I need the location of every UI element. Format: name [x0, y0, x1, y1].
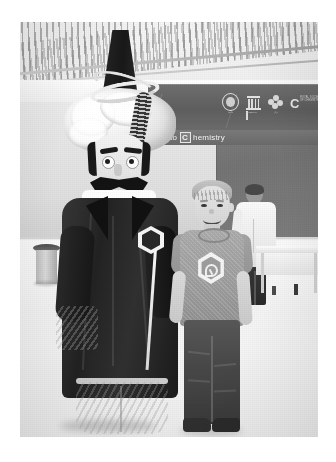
costumed-mascot [46, 30, 186, 435]
banner-logo-row: جامعة MUSEUM مركز C ROYAL SOCIETY OF CHE… [222, 93, 318, 111]
mascot-trousers [76, 382, 168, 434]
emblem-round-logo-caption: جامعة [223, 111, 238, 114]
mascot-sideburn-left [87, 142, 97, 176]
display-table-leg-right [314, 253, 317, 293]
mascot-robe-fold [112, 216, 114, 366]
boy-jeans-seam [211, 336, 213, 422]
mascot-pupil-left [105, 159, 110, 164]
signage-word-hemistry: hemistry [193, 133, 225, 142]
royal-society-c-logo: C ROYAL SOCIETY OF CHEMISTRY [290, 94, 318, 110]
institution-pillars-logo: MUSEUM [246, 94, 261, 110]
hexagon-badge-logo [196, 252, 226, 284]
mascot-nose [114, 164, 122, 176]
royal-society-c-letter: C [290, 96, 299, 111]
mascot-pupil-right [129, 159, 134, 164]
cluster-circles-logo: مركز [268, 94, 283, 110]
screenshot-root: جامعة MUSEUM مركز C ROYAL SOCIETY OF CHE… [0, 0, 336, 462]
display-table-leg-left [261, 253, 264, 293]
boy-ear-left [190, 203, 196, 212]
boy-tshirt-collar [198, 228, 230, 243]
emblem-round-logo: جامعة [222, 93, 239, 111]
boy [170, 174, 254, 436]
table-object-right [294, 284, 298, 295]
display-table-cloth [256, 253, 318, 275]
boy-nose [209, 209, 214, 214]
table-object-left [272, 286, 276, 295]
boy-ear-right [228, 203, 234, 212]
photograph: جامعة MUSEUM مركز C ROYAL SOCIETY OF CHE… [20, 22, 318, 437]
cluster-circles-logo-caption: مركز [268, 111, 283, 114]
boy-arm-right [236, 271, 253, 326]
mascot-cuff-left [56, 306, 98, 350]
boy-shoe-left [183, 418, 211, 432]
boy-shoe-right [212, 418, 240, 432]
hexagon-badge-glyph-icon [205, 262, 217, 274]
mascot-trouser-seam [120, 386, 122, 432]
institution-pillars-logo-caption: MUSEUM [246, 111, 248, 120]
boy-hair-fringe [194, 190, 230, 200]
royal-society-c-caption: ROYAL SOCIETY OF CHEMISTRY [300, 96, 318, 102]
mascot-sideburn-right [141, 142, 151, 176]
